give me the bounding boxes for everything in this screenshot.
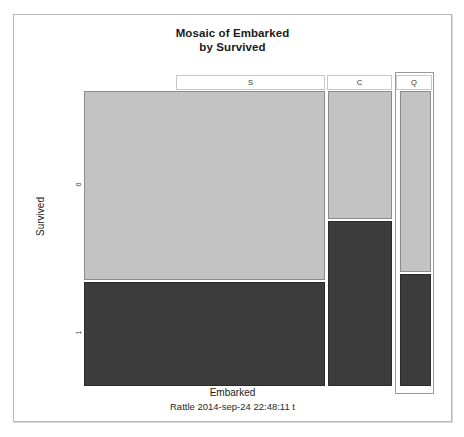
mosaic-tile-s-1[interactable] bbox=[84, 282, 325, 386]
y-axis-label: Survived bbox=[35, 167, 46, 267]
y-axis-tick-0: 0 bbox=[75, 175, 82, 195]
plot-frame: Mosaic of Embarked by Survived Survived … bbox=[13, 14, 452, 422]
x-axis-label: Embarked bbox=[14, 387, 451, 398]
column-header-c[interactable]: C bbox=[327, 75, 392, 90]
mosaic-tile-s-0[interactable] bbox=[84, 91, 325, 280]
mosaic-tile-q-1[interactable] bbox=[400, 274, 431, 386]
column-header-c-label: C bbox=[357, 78, 362, 87]
plot-title-line-2: by Survived bbox=[14, 40, 451, 54]
plot-title-line-1: Mosaic of Embarked bbox=[14, 26, 451, 40]
mosaic-tile-c-0[interactable] bbox=[328, 91, 392, 219]
y-axis-tick-1: 1 bbox=[75, 323, 82, 343]
plot-title: Mosaic of Embarked by Survived bbox=[14, 26, 451, 54]
plot-subtitle: Rattle 2014-sep-24 22:48:11 t bbox=[14, 401, 451, 412]
column-header-s-label: S bbox=[248, 78, 253, 87]
mosaic-tile-q-0[interactable] bbox=[400, 91, 431, 272]
column-header-s[interactable]: S bbox=[176, 75, 325, 90]
mosaic-tile-c-1[interactable] bbox=[328, 221, 392, 386]
